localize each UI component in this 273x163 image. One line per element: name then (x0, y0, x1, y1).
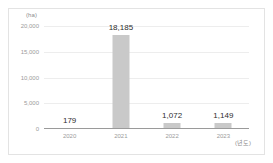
x-axis-caption: (년도) (235, 138, 251, 147)
bar-group: 1,1492023 (198, 26, 249, 129)
bar-value-label: 1,149 (213, 111, 233, 120)
x-axis-tick-label: 2020 (63, 133, 76, 139)
bar-group: 18,1852021 (95, 26, 146, 129)
y-axis-tick-label: 5,000 (24, 100, 39, 106)
y-axis-tick-label: 10,000 (21, 75, 39, 81)
x-axis-line (44, 128, 249, 129)
x-axis-tick-label: 2022 (165, 133, 178, 139)
y-axis-tick-label: 0 (36, 126, 39, 132)
y-axis-tick-label: 15,000 (21, 49, 39, 55)
x-axis-tick-label: 2021 (114, 133, 127, 139)
bar-value-label: 18,185 (109, 23, 133, 32)
bar-chart-figure: (ha) 05,00010,00015,00020,000 179202018,… (0, 0, 273, 163)
y-axis-tick-label: 20,000 (21, 23, 39, 29)
x-axis-tick-label: 2023 (217, 133, 230, 139)
plot-area: 05,00010,00015,00020,000 179202018,18520… (44, 26, 249, 129)
bar[interactable] (112, 35, 129, 129)
bar-value-label: 179 (63, 116, 76, 125)
bar-group: 1,0722022 (147, 26, 198, 129)
y-axis-unit-label: (ha) (26, 12, 37, 18)
bar-group: 1792020 (44, 26, 95, 129)
bar-value-label: 1,072 (162, 111, 182, 120)
